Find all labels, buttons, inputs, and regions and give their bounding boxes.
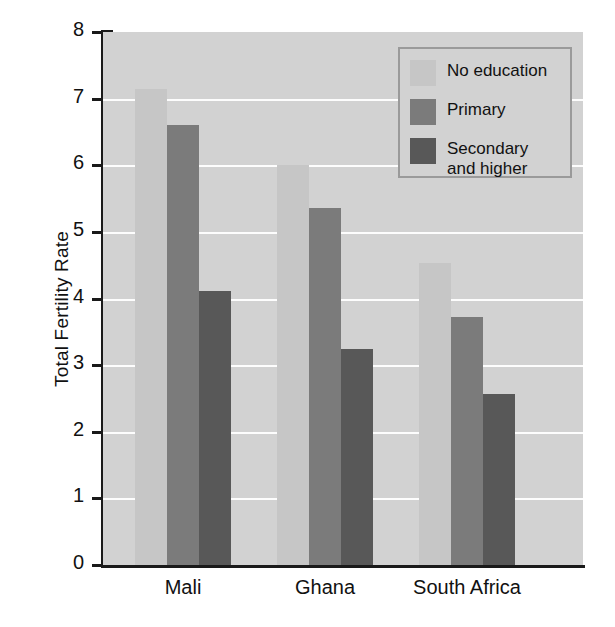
y-axis-tick-label-text: 7 [24, 85, 84, 108]
bar [167, 125, 199, 565]
y-axis-tick-label-text: 2 [24, 418, 84, 441]
bar [135, 89, 167, 565]
x-axis-line [101, 565, 585, 568]
bar [277, 165, 309, 565]
legend-swatch [410, 138, 436, 164]
legend-item[interactable]: No education [410, 60, 547, 86]
y-axis-tick-label-text: 0 [24, 551, 84, 574]
bar [199, 291, 231, 565]
bar [309, 208, 341, 565]
y-axis-tick [92, 298, 103, 301]
bar [419, 263, 451, 565]
legend-swatch [410, 99, 436, 125]
y-axis-tick [92, 231, 103, 234]
y-axis-tick-label-text: 1 [24, 484, 84, 507]
legend-item[interactable]: Primary [410, 99, 506, 125]
y-axis-tick-label-text: 5 [24, 218, 84, 241]
y-axis-tick [92, 364, 103, 367]
y-axis-title: Total Fertility Rate [51, 169, 73, 449]
legend-label: No education [447, 61, 547, 81]
y-axis-tick-label-text: 8 [24, 18, 84, 41]
y-axis-tick [92, 164, 103, 167]
y-axis-tick [92, 431, 103, 434]
y-axis-tick-label-text: 6 [24, 151, 84, 174]
y-axis-tick-label-text: 3 [24, 351, 84, 374]
y-axis-tick-label-text: 4 [24, 285, 84, 308]
legend-label: Secondary and higher [447, 139, 528, 179]
x-axis-category-label: South Africa [367, 576, 567, 599]
legend: No educationPrimarySecondary and higher [398, 47, 572, 178]
legend-swatch [410, 60, 436, 86]
bar [341, 349, 373, 565]
bar [451, 317, 483, 565]
fertility-rate-bar-chart: Total Fertility Rate 012345678 MaliGhana… [0, 0, 615, 627]
y-axis-tick [92, 564, 103, 567]
y-axis-tick [92, 98, 103, 101]
y-axis-tick [92, 497, 103, 500]
legend-label: Primary [447, 100, 506, 120]
y-axis-tick [92, 31, 103, 34]
legend-item[interactable]: Secondary and higher [410, 138, 528, 179]
bar [483, 394, 515, 565]
